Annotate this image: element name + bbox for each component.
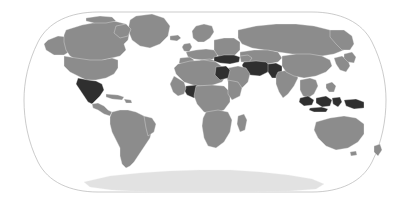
island-tasmania [350, 151, 357, 156]
world-map-figure [0, 0, 402, 218]
world-map-svg [0, 0, 402, 218]
